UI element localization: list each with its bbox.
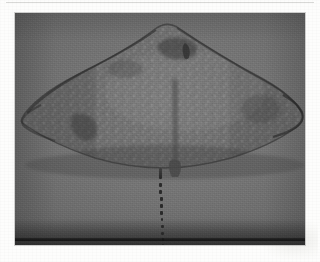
floor-shadow-band: [15, 219, 305, 245]
photo-vignette: [15, 13, 305, 245]
floor-edge-line: [15, 238, 305, 241]
page-top-rule: [6, 2, 314, 3]
page: [0, 0, 320, 262]
specimen-photograph: [15, 13, 305, 245]
